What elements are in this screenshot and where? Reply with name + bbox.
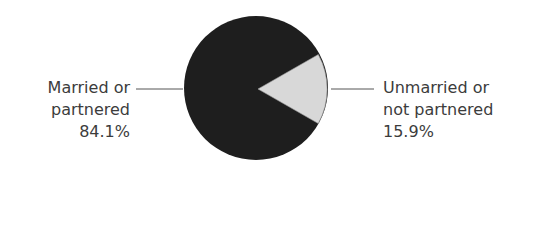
label-married-line2: partnered [48,99,130,121]
label-unmarried-line1: Unmarried or [383,77,493,99]
label-unmarried-line2: not partnered [383,99,493,121]
label-married-value: 84.1% [48,121,130,143]
label-unmarried: Unmarried or not partnered 15.9% [383,77,493,143]
label-married: Married or partnered 84.1% [48,77,130,143]
label-unmarried-value: 15.9% [383,121,493,143]
label-married-line1: Married or [48,77,130,99]
